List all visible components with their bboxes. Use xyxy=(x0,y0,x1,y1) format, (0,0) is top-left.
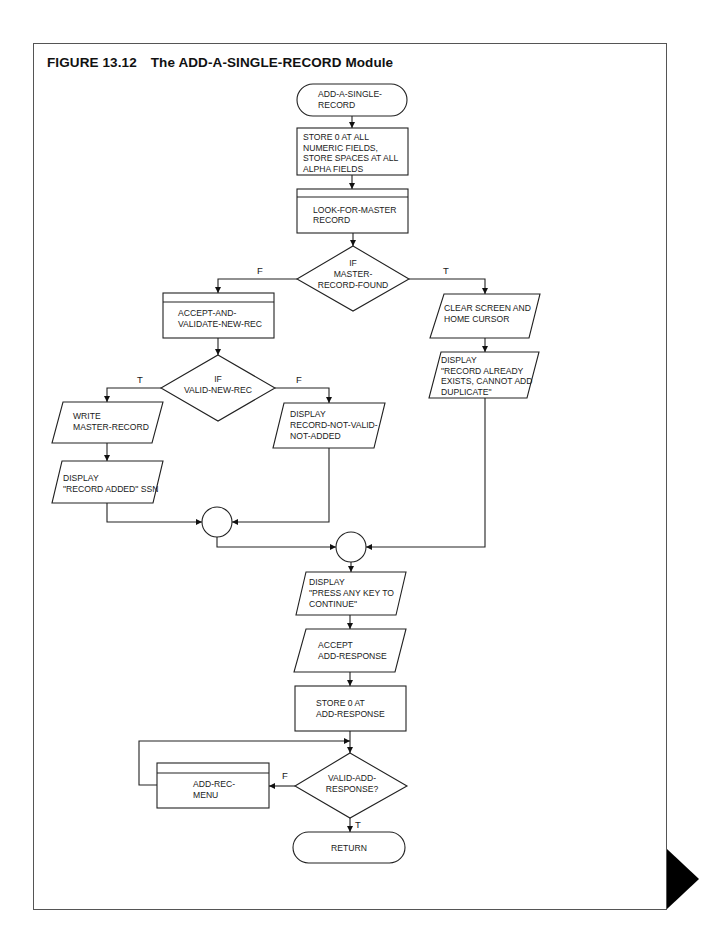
init-label-4: ALPHA FIELDS xyxy=(303,164,363,174)
look-label-1: LOOK-FOR-MASTER xyxy=(313,205,397,215)
return-terminal: RETURN xyxy=(293,832,405,863)
accept-validate-label-2: VALIDATE-NEW-REC xyxy=(178,319,262,329)
valid-false-label: F xyxy=(296,374,302,385)
init-label-3: STORE SPACES AT ALL xyxy=(303,153,399,163)
clear-label-2: HOME CURSOR xyxy=(444,314,509,324)
flowchart: ADD-A-SINGLE- RECORD STORE 0 AT ALL NUME… xyxy=(0,0,703,932)
response-label-2: RESPONSE? xyxy=(326,784,379,794)
exists-label-4: DUPLICATE" xyxy=(441,387,492,397)
found-label-1: IF xyxy=(349,258,357,268)
menu-label-1: ADD-REC- xyxy=(193,779,235,789)
clear-label-1: CLEAR SCREEN AND xyxy=(444,303,531,313)
write-label-1: WRITE xyxy=(73,411,101,421)
notvalid-label-1: DISPLAY xyxy=(290,409,326,419)
display-record-exists-io: DISPLAY "RECORD ALREADY EXISTS, CANNOT A… xyxy=(429,352,539,398)
response-true-label: T xyxy=(355,819,361,830)
valid-true-label: T xyxy=(137,374,143,385)
exists-label-1: DISPLAY xyxy=(441,355,477,365)
start-label-2: RECORD xyxy=(318,100,355,110)
found-label-3: RECORD-FOUND xyxy=(318,280,389,290)
store-add-response-process: STORE 0 AT ADD-RESPONSE xyxy=(295,686,406,731)
master-record-found-decision: IF MASTER- RECORD-FOUND xyxy=(297,246,409,311)
init-fields-process: STORE 0 AT ALL NUMERIC FIELDS, STORE SPA… xyxy=(297,128,408,175)
write-master-record-io: WRITE MASTER-RECORD xyxy=(52,402,163,443)
return-label: RETURN xyxy=(331,843,367,853)
accept-validate-label-1: ACCEPT-AND- xyxy=(178,308,236,318)
notvalid-label-3: NOT-ADDED xyxy=(290,431,341,441)
exists-label-3: EXISTS, CANNOT ADD xyxy=(441,376,533,386)
start-label-1: ADD-A-SINGLE- xyxy=(318,89,382,99)
press-label-3: CONTINUE" xyxy=(309,599,357,609)
press-label-2: "PRESS ANY KEY TO xyxy=(309,588,394,598)
notvalid-label-2: RECORD-NOT-VALID- xyxy=(290,420,378,430)
valid-add-response-decision: VALID-ADD- RESPONSE? xyxy=(295,753,407,818)
exists-label-2: "RECORD ALREADY xyxy=(441,366,524,376)
store-label-2: ADD-RESPONSE xyxy=(316,709,385,719)
next-page-triangle-icon xyxy=(667,849,699,909)
response-false-label: F xyxy=(282,770,288,781)
display-record-added-io: DISPLAY "RECORD ADDED" SSN xyxy=(52,461,163,503)
added-label-1: DISPLAY xyxy=(63,473,99,483)
start-terminal: ADD-A-SINGLE- RECORD xyxy=(297,84,407,116)
response-label-1: VALID-ADD- xyxy=(328,773,376,783)
look-label-2: RECORD xyxy=(313,215,350,225)
display-press-any-key-io: DISPLAY "PRESS ANY KEY TO CONTINUE" xyxy=(296,572,406,615)
press-label-1: DISPLAY xyxy=(309,577,345,587)
clear-screen-io: CLEAR SCREEN AND HOME CURSOR xyxy=(430,294,540,338)
found-label-2: MASTER- xyxy=(334,269,373,279)
found-false-label: F xyxy=(257,265,263,276)
init-label-1: STORE 0 AT ALL xyxy=(303,132,369,142)
menu-label-2: MENU xyxy=(193,790,218,800)
look-for-master-process: LOOK-FOR-MASTER RECORD xyxy=(297,189,408,233)
valid-new-rec-decision: IF VALID-NEW-REC xyxy=(161,355,275,421)
init-label-2: NUMERIC FIELDS, xyxy=(303,143,378,153)
write-label-2: MASTER-RECORD xyxy=(73,422,149,432)
added-label-2: "RECORD ADDED" SSN xyxy=(63,484,158,494)
display-record-not-valid-io: DISPLAY RECORD-NOT-VALID- NOT-ADDED xyxy=(273,403,385,448)
accept-label-2: ADD-RESPONSE xyxy=(318,651,387,661)
valid-label-2: VALID-NEW-REC xyxy=(184,385,252,395)
found-true-label: T xyxy=(443,265,449,276)
store-label-1: STORE 0 AT xyxy=(316,698,366,708)
accept-label-1: ACCEPT xyxy=(318,640,354,650)
connector-1 xyxy=(202,507,232,537)
add-rec-menu-process: ADD-REC- MENU xyxy=(157,763,269,808)
accept-and-validate-process: ACCEPT-AND- VALIDATE-NEW-REC xyxy=(163,293,274,338)
connector-2 xyxy=(336,532,366,562)
valid-label-1: IF xyxy=(214,374,222,384)
accept-add-response-io: ACCEPT ADD-RESPONSE xyxy=(294,629,406,672)
